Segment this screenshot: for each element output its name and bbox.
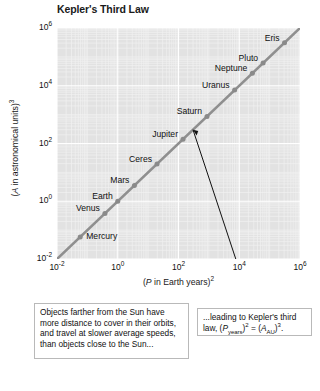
caption-box-right: ...leading to Kepler's third law, (Pyear… bbox=[197, 308, 312, 336]
x-tick-label: 106 bbox=[293, 262, 306, 272]
point-label-ceres: Ceres bbox=[129, 154, 152, 164]
caption-box-left: Objects farther from the Sun have more d… bbox=[34, 303, 189, 359]
point-label-pluto: Pluto bbox=[238, 53, 258, 63]
point-label-uranus: Uranus bbox=[202, 80, 230, 90]
point-label-eris: Eris bbox=[265, 33, 280, 43]
y-tick-label: 104 bbox=[28, 80, 52, 90]
point-label-saturn: Saturn bbox=[177, 106, 202, 116]
x-tick-label: 102 bbox=[172, 262, 185, 272]
kepler-third-law-figure: Kepler's Third Law 10-210010210410610-21… bbox=[0, 0, 320, 391]
x-axis-title: (P in Earth years)2 bbox=[57, 277, 300, 287]
y-tick-label: 102 bbox=[28, 138, 52, 148]
point-label-earth: Earth bbox=[92, 191, 113, 201]
page-title: Kepler's Third Law bbox=[57, 3, 149, 15]
x-tick-label: 10-2 bbox=[49, 262, 64, 272]
y-axis-title: (A in astronomical units)3 bbox=[10, 48, 20, 248]
y-tick-label: 100 bbox=[28, 195, 52, 205]
point-label-venus: Venus bbox=[76, 203, 100, 213]
point-label-neptune: Neptune bbox=[215, 63, 248, 73]
x-tick-label: 104 bbox=[233, 262, 246, 272]
y-tick-label: 10-2 bbox=[28, 253, 52, 263]
point-label-mars: Mars bbox=[110, 175, 129, 185]
plot-svg bbox=[57, 28, 300, 259]
point-label-jupiter: Jupiter bbox=[152, 129, 178, 139]
plot-area bbox=[57, 28, 300, 259]
point-label-mercury: Mercury bbox=[86, 231, 117, 241]
y-tick-label: 106 bbox=[28, 22, 52, 32]
x-tick-label: 100 bbox=[111, 262, 124, 272]
